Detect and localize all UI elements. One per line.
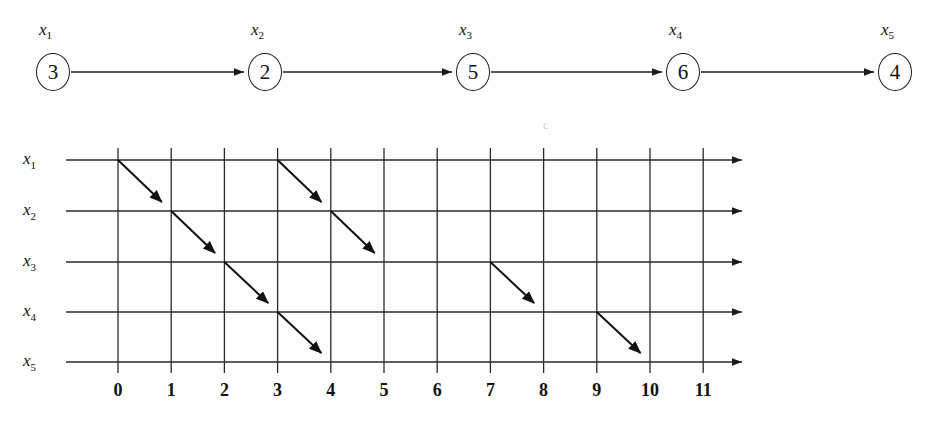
chain-node-3[interactable]: 5 bbox=[456, 53, 490, 91]
x-tick-label-6: 6 bbox=[433, 380, 442, 401]
row-label-1: x1 bbox=[23, 149, 36, 170]
x-tick-label-3: 3 bbox=[273, 380, 282, 401]
chain-diagram: x13x22x35x46x54 bbox=[0, 0, 939, 118]
transition-arrow-4 bbox=[278, 312, 322, 353]
chain-node-label-1: x1 bbox=[39, 20, 52, 41]
chain-node-label-3: x3 bbox=[459, 20, 472, 41]
scan-artifact: c bbox=[543, 118, 548, 133]
chain-node-1[interactable]: 3 bbox=[36, 53, 70, 91]
figure-canvas: x13x22x35x46x54 x1x2x3x4x5 0123456789101… bbox=[0, 0, 939, 426]
x-tick-label-4: 4 bbox=[326, 380, 335, 401]
x-tick-label-2: 2 bbox=[220, 380, 229, 401]
row-label-2: x2 bbox=[23, 200, 36, 221]
transition-arrow-7 bbox=[490, 262, 534, 303]
transition-arrow-3 bbox=[224, 262, 268, 303]
row-label-3: x3 bbox=[23, 251, 36, 272]
row-label-5: x5 bbox=[23, 351, 36, 372]
transition-arrow-8 bbox=[597, 312, 641, 353]
transition-arrow-5 bbox=[278, 160, 322, 202]
row-label-4: x4 bbox=[23, 301, 36, 322]
grid-lines-layer bbox=[0, 118, 939, 426]
chain-node-5[interactable]: 4 bbox=[878, 53, 912, 91]
x-tick-label-0: 0 bbox=[114, 380, 123, 401]
transition-arrow-6 bbox=[331, 211, 375, 253]
chain-node-label-4: x4 bbox=[669, 20, 682, 41]
x-tick-label-9: 9 bbox=[592, 380, 601, 401]
transition-arrow-1 bbox=[118, 160, 162, 202]
x-tick-label-5: 5 bbox=[380, 380, 389, 401]
x-tick-label-7: 7 bbox=[486, 380, 495, 401]
transition-arrow-2 bbox=[171, 211, 215, 253]
x-tick-label-11: 11 bbox=[695, 380, 712, 401]
x-tick-label-10: 10 bbox=[641, 380, 659, 401]
chain-node-label-5: x5 bbox=[881, 20, 894, 41]
timing-grid: x1x2x3x4x5 01234567891011 c bbox=[0, 118, 939, 426]
chain-node-label-2: x2 bbox=[251, 20, 264, 41]
x-tick-label-8: 8 bbox=[539, 380, 548, 401]
chain-node-4[interactable]: 6 bbox=[666, 53, 700, 91]
x-tick-label-1: 1 bbox=[167, 380, 176, 401]
chain-node-2[interactable]: 2 bbox=[248, 53, 282, 91]
